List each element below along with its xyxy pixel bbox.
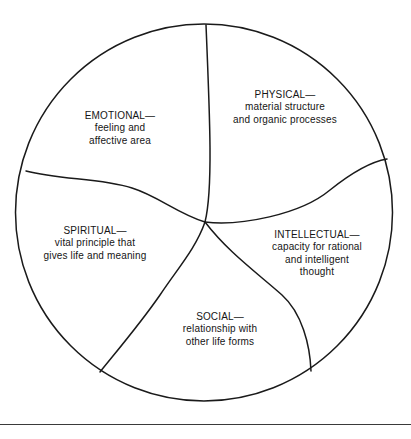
segment-line-physical-2: and organic processes bbox=[214, 114, 356, 126]
segment-title-spiritual: SPIRITUAL— bbox=[20, 225, 170, 237]
segment-label-emotional: EMOTIONAL— feeling and affective area bbox=[56, 110, 184, 147]
segment-label-intellectual: INTELLECTUAL— capacity for rational and … bbox=[252, 229, 382, 279]
divider-curve-left bbox=[26, 171, 205, 222]
segment-label-spiritual: SPIRITUAL— vital principle that gives li… bbox=[20, 225, 170, 262]
segment-line-spiritual-1: vital principle that bbox=[20, 237, 170, 249]
segment-line-intellectual-2: and intelligent bbox=[252, 254, 382, 266]
segment-line-social-1: relationship with bbox=[155, 323, 285, 335]
bottom-divider-rule bbox=[0, 424, 411, 425]
segment-line-social-2: other life forms bbox=[155, 336, 285, 348]
divider-curve-upper-right bbox=[205, 159, 387, 223]
segment-line-emotional-2: affective area bbox=[56, 135, 184, 147]
segment-line-intellectual-3: thought bbox=[252, 266, 382, 278]
segment-title-emotional: EMOTIONAL— bbox=[56, 110, 184, 122]
pinwheel-circle-graphic bbox=[0, 0, 411, 439]
segment-line-spiritual-2: gives life and meaning bbox=[20, 250, 170, 262]
segment-line-physical-1: material structure bbox=[214, 101, 356, 113]
segment-title-intellectual: INTELLECTUAL— bbox=[252, 229, 382, 241]
divider-curve-top bbox=[205, 25, 210, 222]
segment-title-social: SOCIAL— bbox=[155, 311, 285, 323]
segment-label-social: SOCIAL— relationship with other life for… bbox=[155, 311, 285, 348]
segment-label-physical: PHYSICAL— material structure and organic… bbox=[214, 89, 356, 126]
segment-line-intellectual-1: capacity for rational bbox=[252, 241, 382, 253]
wellness-diagram: EMOTIONAL— feeling and affective area PH… bbox=[0, 0, 411, 439]
segment-line-emotional-1: feeling and bbox=[56, 122, 184, 134]
segment-title-physical: PHYSICAL— bbox=[214, 89, 356, 101]
